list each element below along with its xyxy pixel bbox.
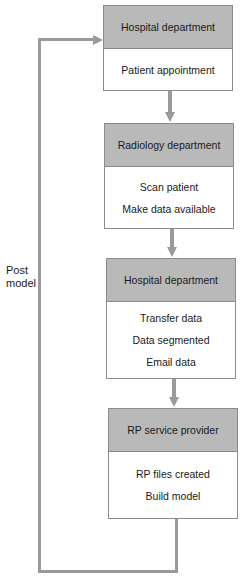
arrow-down-icon (165, 112, 175, 122)
box-item: Scan patient (140, 176, 198, 198)
flow-box-rp-provider: RP service provider RP files created Bui… (108, 408, 238, 519)
box-header: Hospital department (107, 259, 235, 302)
box-item: Email data (146, 351, 196, 373)
box-header: Radiology department (105, 124, 233, 167)
loop-label-line1: Post (6, 264, 36, 277)
arrow-down-icon (167, 247, 177, 257)
box-body: RP files created Build model (109, 452, 237, 518)
flow-box-radiology: Radiology department Scan patient Make d… (104, 123, 234, 229)
loop-arrowhead-icon (93, 35, 103, 45)
arrow-shaft-3 (172, 379, 176, 398)
box-body: Scan patient Make data available (105, 167, 233, 228)
loop-label-line2: model (6, 277, 36, 290)
arrow-down-icon (169, 397, 179, 407)
box-item: Transfer data (140, 307, 202, 329)
loop-line-right (175, 518, 178, 573)
loop-line-left (38, 38, 41, 573)
box-body: Patient appointment (104, 49, 232, 90)
flow-box-hospital-appointment: Hospital department Patient appointment (103, 5, 233, 91)
loop-label: Post model (6, 264, 36, 290)
loop-line-bottom (38, 570, 178, 573)
box-item: RP files created (136, 463, 210, 485)
box-header: Hospital department (104, 6, 232, 49)
box-body: Transfer data Data segmented Email data (107, 302, 235, 378)
loop-line-top (38, 38, 94, 41)
box-item: Make data available (122, 198, 215, 220)
box-header: RP service provider (109, 409, 237, 452)
arrow-shaft-2 (170, 229, 174, 248)
flow-box-hospital-transfer: Hospital department Transfer data Data s… (106, 258, 236, 379)
box-item: Patient appointment (121, 59, 214, 81)
arrow-shaft-1 (168, 91, 172, 113)
box-item: Data segmented (132, 329, 209, 351)
box-item: Build model (146, 485, 201, 507)
